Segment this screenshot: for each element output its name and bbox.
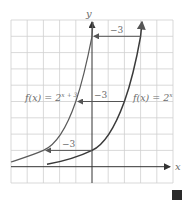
- label-f-2-pow-x: f(x) = 2x: [132, 91, 173, 103]
- x-axis-label: x: [175, 161, 181, 172]
- shift-label-bottom: −3: [62, 139, 76, 149]
- shift-label-top: −3: [110, 25, 124, 35]
- shift-label-mid: −3: [94, 90, 108, 100]
- y-axis-label: y: [85, 8, 92, 19]
- svg-text:f(x) = 2x: f(x) = 2x: [132, 91, 173, 103]
- end-of-figure-square: [172, 190, 182, 200]
- exponential-graph: x y −3 −3 −3 f(x) = 2x + 3 f(x) = 2x: [0, 0, 188, 200]
